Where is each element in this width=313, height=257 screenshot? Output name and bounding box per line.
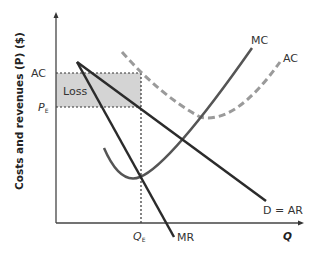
pe-label: PE [38,101,49,114]
ac-curve-label: AC [283,52,298,65]
ac-curve [122,52,280,118]
demand-curve [77,62,266,201]
demand-label: D = AR [263,204,303,217]
ac-level-label: AC [31,67,46,80]
x-axis-label: Q [283,230,292,242]
x-axis-arrow-icon [298,221,304,226]
loss-label: Loss [63,85,87,98]
qe-label: QE [133,230,146,243]
y-axis-label: Costs and revenues (P) ($) [13,32,25,190]
monopoly-loss-diagram: MC AC AC PE Loss QE D = AR MR Q Costs an… [0,0,313,257]
mr-label: MR [177,231,194,244]
y-axis-arrow-icon [54,12,59,18]
mc-label: MC [251,34,268,47]
